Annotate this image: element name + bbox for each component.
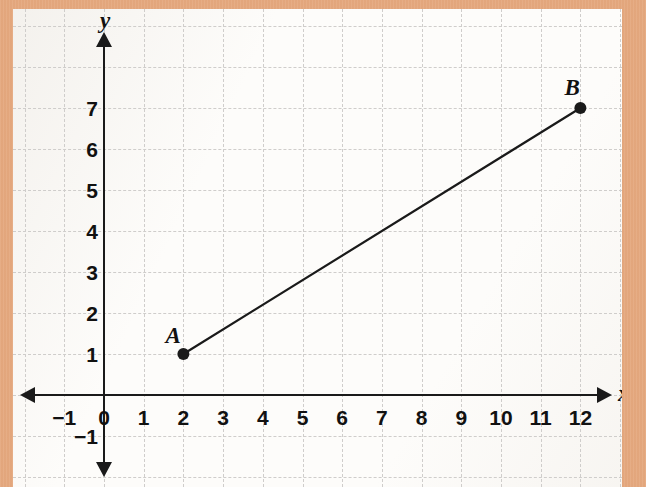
graph-paper-panel: x y −10123456789101112 7654321−1 AB [13,9,622,487]
plot-point-a [177,348,189,360]
plot-layer [13,9,622,487]
plot-point-b [574,102,586,114]
segment-group [183,108,580,354]
point-label-a: A [165,324,180,347]
segment-ab [183,108,580,354]
coordinate-plane-figure: x y −10123456789101112 7654321−1 AB [0,0,646,487]
point-label-b: B [564,76,579,99]
